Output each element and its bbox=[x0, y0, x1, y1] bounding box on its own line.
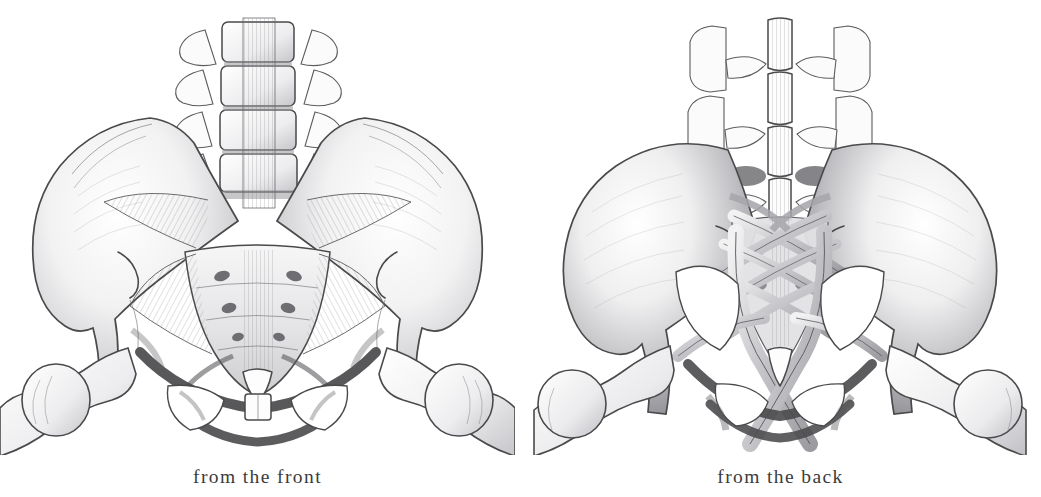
sacrum-anterior bbox=[185, 245, 330, 402]
obturator-foramen-right bbox=[291, 385, 348, 430]
femur-left bbox=[0, 348, 136, 455]
greater-sciatic-foramen-left bbox=[676, 266, 739, 350]
caption-from-the-back: from the back bbox=[520, 466, 1041, 488]
figure-pelvis-posterior bbox=[520, 0, 1041, 455]
femur-right bbox=[379, 348, 515, 455]
obturator-foramen-left bbox=[167, 385, 224, 430]
greater-sciatic-foramen-right bbox=[821, 266, 884, 350]
anterior-longitudinal-ligament bbox=[243, 18, 275, 208]
greater-trochanter-left bbox=[22, 364, 90, 436]
figure-pelvis-anterior bbox=[0, 0, 515, 455]
greater-trochanter-posterior-left bbox=[538, 370, 606, 438]
supraspinous-ligament bbox=[770, 18, 790, 224]
caption-from-the-front: from the front bbox=[0, 466, 515, 488]
greater-trochanter-right bbox=[425, 364, 493, 436]
anatomy-plate: from the front from the back bbox=[0, 0, 1041, 497]
greater-trochanter-posterior-right bbox=[954, 370, 1022, 438]
